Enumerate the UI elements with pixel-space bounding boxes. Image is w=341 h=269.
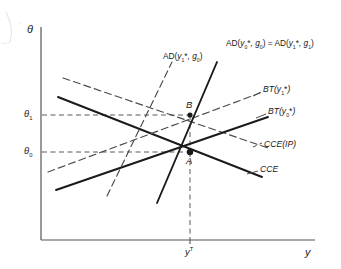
- point-label-A: A: [186, 156, 192, 166]
- ytick-theta0-sub: 0: [29, 152, 32, 158]
- ytick-label-theta1: θ1: [24, 109, 32, 122]
- leader-bt-y1: [253, 92, 261, 96]
- curve-label-bt-y0: BT(y0*): [268, 107, 295, 118]
- curve-label-ad-combined: AD(y0*, g0) = AD(y1*, g1): [226, 39, 314, 50]
- ad-combined-eq: ) = AD(: [263, 38, 289, 48]
- ytick-theta1-sub: 1: [29, 115, 32, 121]
- y-axis-label: θ: [27, 24, 33, 35]
- bt-y0-prefix: BT(: [268, 106, 282, 116]
- ad-left-mid: , g: [188, 51, 197, 61]
- curve-bt-y0: [56, 117, 268, 190]
- point-label-B: B: [186, 100, 192, 110]
- curve-cce-ip: [63, 78, 268, 148]
- xtick-yT-sup: T: [190, 246, 194, 252]
- leader-lines: [247, 92, 266, 174]
- bt-y1-close: ): [287, 84, 290, 94]
- curve-label-cce: CCE: [260, 165, 278, 174]
- curve-cce: [58, 97, 262, 177]
- economics-diagram: θ y θ1 θ0 yT B A AD(y0*, g0) = AD(y1*, g…: [0, 0, 341, 269]
- ad-combined-close: ): [311, 38, 314, 48]
- xtick-label-yT: yT: [185, 247, 193, 257]
- curve-ad-combined: [157, 62, 217, 203]
- bt-y1-prefix: BT(: [263, 84, 277, 94]
- ad-left-close: ): [200, 51, 203, 61]
- bt-y0-close: ): [292, 106, 295, 116]
- ytick-label-theta0: θ0: [24, 146, 32, 159]
- page-edge-artifact: [1, 12, 21, 44]
- ad-combined-midb: , g: [299, 38, 308, 48]
- point-B-marker: [187, 112, 192, 117]
- x-axis-label: y: [305, 247, 311, 258]
- curve-label-ad-left: AD(y1*, g0): [163, 52, 202, 63]
- curve-label-bt-y1: BT(y1*): [263, 85, 290, 96]
- ad-combined-mid: , g: [251, 38, 260, 48]
- ad-left-prefix: AD(: [163, 51, 177, 61]
- ad-combined-prefix: AD(: [226, 38, 240, 48]
- curve-label-cce-ip: CCE(IP): [264, 140, 296, 149]
